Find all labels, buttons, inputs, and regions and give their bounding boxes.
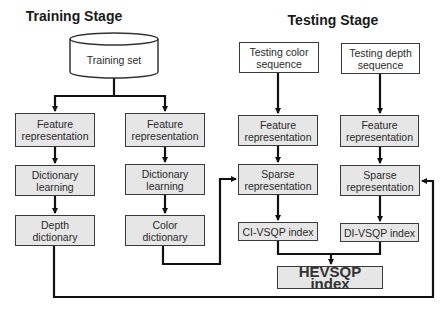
testing-color-feature-box: Feature representation <box>238 115 318 146</box>
box-label: CI-VSQP index <box>242 226 313 238</box>
box-label: Feature representation <box>21 118 88 142</box>
ci-vsqp-index-box: CI-VSQP index <box>238 222 318 241</box>
box-label: HEVSQP index <box>278 266 382 290</box>
depth-dictionary-learning-box: Dictionary learning <box>15 165 95 196</box>
depth-sparse-representation-box: Sparse representation <box>340 165 420 196</box>
box-label: Depth dictionary <box>33 219 78 243</box>
color-dictionary-learning-box: Dictionary learning <box>125 164 205 195</box>
hevsqp-index-box: HEVSQP index <box>277 266 383 289</box>
di-vsqp-index-box: DI-VSQP index <box>340 223 419 242</box>
box-label: Feature representation <box>131 118 198 142</box>
box-label: Feature representation <box>244 119 311 143</box>
box-label: Testing color sequence <box>250 46 309 70</box>
box-label: Dictionary learning <box>142 168 189 192</box>
box-label: Sparse representation <box>244 168 311 192</box>
box-label: Color dictionary <box>143 219 188 243</box>
color-dictionary-box: Color dictionary <box>125 215 205 246</box>
testing-depth-feature-box: Feature representation <box>340 115 419 147</box>
box-label: Sparse representation <box>346 169 413 193</box>
testing-depth-sequence-box: Testing depth sequence <box>341 43 420 74</box>
color-sparse-representation-box: Sparse representation <box>238 164 318 195</box>
box-label: Testing depth sequence <box>349 47 411 71</box>
training-set-label: Training set <box>70 54 158 66</box>
testing-stage-title: Testing Stage <box>278 12 388 28</box>
color-feature-representation-box: Feature representation <box>125 113 205 147</box>
depth-feature-representation-box: Feature representation <box>15 113 95 147</box>
box-label: DI-VSQP index <box>344 227 415 239</box>
diagram-canvas: Training Stage Testing Stage Training se… <box>0 0 446 312</box>
box-label: Dictionary learning <box>32 169 79 193</box>
depth-dictionary-box: Depth dictionary <box>15 215 95 246</box>
training-stage-title: Training Stage <box>24 8 124 24</box>
box-label: Feature representation <box>346 119 413 143</box>
testing-color-sequence-box: Testing color sequence <box>239 42 319 73</box>
